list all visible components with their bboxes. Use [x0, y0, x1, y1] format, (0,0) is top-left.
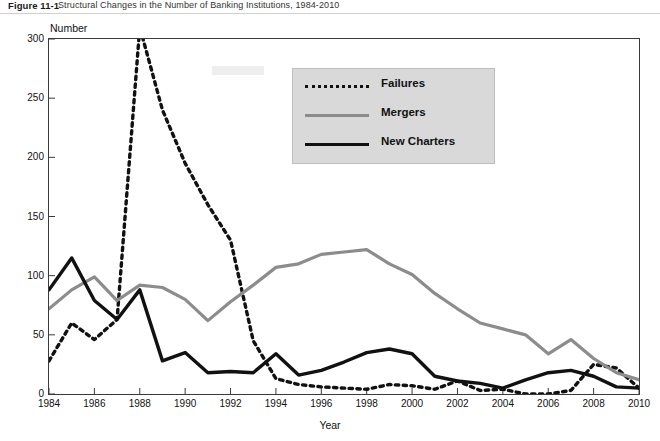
y-tick-label: 0: [10, 388, 44, 399]
caption-divider: [0, 13, 660, 14]
legend-item-new-charters: New Charters: [293, 131, 494, 157]
x-tick-label: 1990: [174, 398, 196, 409]
x-tick-label: 2002: [446, 398, 468, 409]
x-axis-ticks: 1984198619881990199219941996199820002002…: [48, 398, 640, 412]
x-tick-label: 2010: [628, 398, 650, 409]
x-tick-label: 1992: [219, 398, 241, 409]
legend-swatch-new-charters: [305, 143, 369, 146]
legend-label-mergers: Mergers: [381, 106, 426, 118]
legend-label-new-charters: New Charters: [381, 135, 455, 147]
figure-number: Figure 11-1: [8, 0, 59, 11]
legend-item-failures: Failures: [293, 73, 494, 99]
y-tick-label: 100: [10, 269, 44, 280]
x-tick-label: 2008: [582, 398, 604, 409]
x-tick-label: 1988: [129, 398, 151, 409]
legend-swatch-mergers: [305, 114, 369, 117]
y-tick-label: 50: [10, 328, 44, 339]
figure-caption: Figure 11-1 Structural Changes in the Nu…: [0, 0, 660, 14]
x-tick-label: 1984: [38, 398, 60, 409]
x-tick-label: 1986: [83, 398, 105, 409]
x-tick-label: 1996: [310, 398, 332, 409]
figure-container: Figure 11-1 Structural Changes in the Nu…: [0, 0, 660, 441]
figure-title: Structural Changes in the Number of Bank…: [58, 0, 339, 10]
x-tick-label: 2000: [401, 398, 423, 409]
y-tick-label: 200: [10, 151, 44, 162]
legend-label-failures: Failures: [381, 77, 425, 89]
y-axis-label: Number: [50, 22, 87, 34]
legend-item-mergers: Mergers: [293, 102, 494, 128]
x-tick-label: 2006: [537, 398, 559, 409]
series-new-charters: [49, 258, 639, 388]
x-tick-label: 1994: [265, 398, 287, 409]
y-tick-label: 300: [10, 33, 44, 44]
x-tick-label: 2004: [492, 398, 514, 409]
y-axis-ticks: 050100150200250300: [4, 38, 44, 395]
chart-legend: Failures Mergers New Charters: [292, 68, 495, 164]
legend-swatch-failures: [305, 85, 369, 88]
x-axis-label: Year: [0, 419, 660, 431]
x-tick-label: 1998: [356, 398, 378, 409]
background-smudge: [212, 66, 264, 75]
y-tick-label: 250: [10, 92, 44, 103]
y-tick-label: 150: [10, 210, 44, 221]
